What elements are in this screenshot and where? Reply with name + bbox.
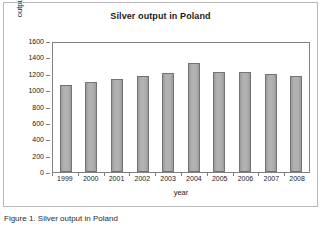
y-tick-label: 1400	[28, 54, 44, 62]
bar-slot	[181, 43, 207, 172]
bar-slot	[79, 43, 105, 172]
x-tick-label: 2001	[104, 175, 130, 182]
bar-slot	[207, 43, 233, 172]
x-tick-label: 2000	[78, 175, 104, 182]
x-tick-label: 2002	[129, 175, 155, 182]
bar-slot	[258, 43, 284, 172]
bar-slot	[130, 43, 156, 172]
y-tick-label: 800	[32, 104, 44, 112]
x-tick-label: 2006	[233, 175, 259, 182]
x-tick-label: 2003	[155, 175, 181, 182]
bar-slot	[155, 43, 181, 172]
bar-series	[53, 43, 309, 172]
y-tick-label: 200	[32, 153, 44, 161]
figure-caption: Figure 1. Silver output in Poland	[4, 214, 304, 227]
bar[interactable]	[111, 79, 123, 172]
x-tick-label: 2008	[284, 175, 310, 182]
bar[interactable]	[85, 82, 97, 172]
chart-title: Silver output in Poland	[4, 11, 317, 21]
x-axis-label: year	[52, 188, 310, 197]
y-tick-mark	[46, 58, 50, 59]
bar[interactable]	[290, 76, 302, 172]
bar[interactable]	[239, 72, 251, 172]
plot-area	[52, 42, 310, 173]
y-tick-mark	[46, 157, 50, 158]
bar[interactable]	[162, 73, 174, 172]
x-tick-label: 2007	[258, 175, 284, 182]
y-tick-mark	[46, 75, 50, 76]
y-tick-label: 400	[32, 136, 44, 144]
y-tick-label: 1000	[28, 87, 44, 95]
x-tick-label: 1999	[52, 175, 78, 182]
x-tick-label: 2004	[181, 175, 207, 182]
y-axis-ticks: 02004006008001000120014001600	[4, 36, 50, 179]
x-axis-ticks: 1999200020012002200320042005200620072008	[52, 175, 310, 182]
y-tick-mark	[46, 91, 50, 92]
bar[interactable]	[137, 76, 149, 172]
bar[interactable]	[265, 74, 277, 172]
figure-container: Silver output in Poland output (Mg) 0200…	[3, 2, 318, 207]
bar[interactable]	[213, 72, 225, 172]
y-tick-mark	[46, 124, 50, 125]
y-tick-mark	[46, 42, 50, 43]
bar-slot	[104, 43, 130, 172]
bar-slot	[283, 43, 309, 172]
y-tick-label: 600	[32, 120, 44, 128]
y-tick-mark	[46, 108, 50, 109]
y-tick-label: 0	[40, 169, 44, 177]
bar-slot	[232, 43, 258, 172]
y-tick-mark	[46, 140, 50, 141]
y-tick-mark	[46, 173, 50, 174]
x-tick-label: 2005	[207, 175, 233, 182]
bar-slot	[53, 43, 79, 172]
y-tick-label: 1600	[28, 38, 44, 46]
bar[interactable]	[60, 85, 72, 172]
bar[interactable]	[188, 63, 200, 172]
y-tick-label: 1200	[28, 71, 44, 79]
